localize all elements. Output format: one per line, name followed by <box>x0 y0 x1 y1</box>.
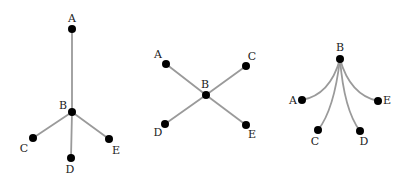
edge-B-D <box>71 112 72 158</box>
node-label-A: A <box>288 94 298 107</box>
node-B <box>336 55 344 63</box>
node-label-E: E <box>112 144 120 157</box>
node-B <box>68 108 76 116</box>
node-label-A: A <box>67 12 77 25</box>
node-label-E: E <box>248 128 256 141</box>
edge-B-E <box>206 95 246 125</box>
edge-B-C <box>206 66 246 95</box>
node-label-D: D <box>66 163 75 176</box>
node-D <box>356 127 364 135</box>
node-C <box>314 126 322 134</box>
node-label-C: C <box>311 135 319 148</box>
tree-diagram-fan: BACDE <box>288 41 391 148</box>
edge-B-E <box>72 112 109 139</box>
node-label-C: C <box>248 50 256 63</box>
node-D <box>67 154 75 162</box>
node-label-B: B <box>336 41 344 54</box>
edge-B-D <box>165 95 206 124</box>
node-A <box>298 96 306 104</box>
edge-B-C <box>33 112 72 138</box>
node-label-B: B <box>59 99 67 112</box>
node-label-C: C <box>20 142 28 155</box>
node-A <box>162 60 170 68</box>
node-E <box>374 97 382 105</box>
node-label-D: D <box>360 135 369 148</box>
tree-diagrams-canvas: ABCDE ABCDE BACDE <box>0 0 409 178</box>
node-C <box>29 134 37 142</box>
node-label-A: A <box>153 48 163 61</box>
node-label-B: B <box>201 78 209 91</box>
node-B <box>202 91 210 99</box>
node-A <box>68 25 76 33</box>
tree-diagram-cross: ABCDE <box>153 48 256 141</box>
tree-diagram-vertical: ABCDE <box>20 12 120 176</box>
node-label-E: E <box>383 94 391 107</box>
node-E <box>105 135 113 143</box>
node-C <box>242 62 250 70</box>
node-label-D: D <box>154 126 163 139</box>
